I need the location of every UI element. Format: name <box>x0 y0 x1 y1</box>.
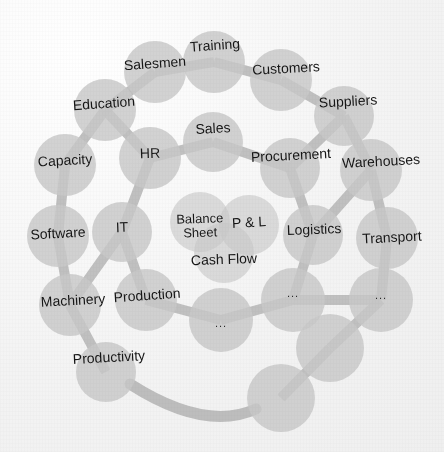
label-cash-flow: Cash Flow <box>184 251 264 269</box>
label-p-and-l: P & L <box>219 213 280 231</box>
diagram-canvas: TrainingCustomersSuppliersWarehousesTran… <box>0 0 444 452</box>
node-blank-out-2[interactable] <box>247 364 315 432</box>
label-hr: HR <box>133 145 168 161</box>
label-sales: Sales <box>183 119 244 137</box>
link-productivity-blank2 <box>130 384 256 416</box>
label-it: IT <box>107 219 138 235</box>
label-dots-mid-1: ... <box>278 288 308 300</box>
label-dots-mid-2: ... <box>206 318 236 330</box>
node-dots-mid-1[interactable] <box>261 268 325 332</box>
driver-tree-graph: TrainingCustomersSuppliersWarehousesTran… <box>0 0 444 452</box>
label-dots-out-1: ... <box>366 290 396 302</box>
label-logistics: Logistics <box>277 221 351 239</box>
